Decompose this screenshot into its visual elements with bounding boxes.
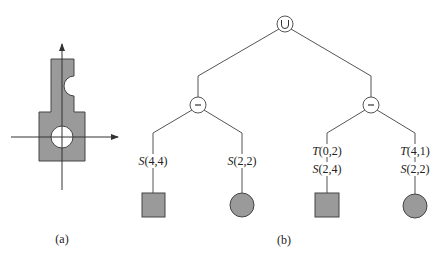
label-t41: T(4,1) [400,144,430,158]
edge-left-child2 [204,110,242,154]
edge-right-child1 [327,110,365,144]
edge-root-right [291,29,371,97]
leaf-square-2 [315,193,339,217]
label-t02: T(0,2) [312,144,342,158]
leaf-square-1 [142,193,165,217]
leaf-circle-2 [403,194,427,218]
edge-right-child2 [377,110,415,144]
leaf-circle-1 [230,193,254,217]
union-node [277,16,293,32]
edge-left-child1 [153,110,192,154]
difference-node-left [190,97,206,113]
figure-canvas: (a) S(4,4) S(2,2) T(0,2) S(2,4) T(4,1) S… [0,0,440,258]
caption-b: (b) [277,233,291,247]
label-s24: S(2,4) [313,162,342,176]
part-drawing [11,44,118,190]
difference-node-right [363,97,379,113]
caption-a: (a) [55,232,68,246]
csg-figure: (a) S(4,4) S(2,2) T(0,2) S(2,4) T(4,1) S… [0,0,440,258]
label-s22b: S(2,2) [401,162,430,176]
label-s22: S(2,2) [228,154,257,168]
edge-root-left [198,29,279,97]
label-s44: S(4,4) [139,154,168,168]
